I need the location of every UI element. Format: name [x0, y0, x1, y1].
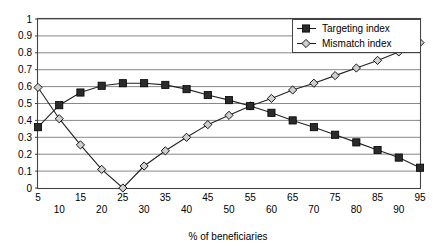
- data-point-marker: [310, 124, 317, 131]
- y-tick-label: 0.9: [18, 30, 32, 41]
- data-point-marker: [204, 91, 211, 98]
- x-tick-label: 15: [75, 192, 87, 203]
- y-tick-label: 0.1: [18, 166, 32, 177]
- x-tick-label: 85: [372, 192, 384, 203]
- y-tick-label: 0.7: [18, 64, 32, 75]
- series-line: [38, 83, 420, 168]
- y-tick-label: 0.8: [18, 47, 32, 58]
- data-point-marker: [225, 97, 232, 104]
- data-point-marker: [268, 109, 275, 116]
- legend[interactable]: Targeting indexMismatch index: [293, 20, 421, 53]
- x-tick-label: 10: [54, 204, 66, 215]
- x-tick-label: 60: [266, 204, 278, 215]
- x-tick-label: 65: [287, 192, 299, 203]
- y-tick-label: 0.6: [18, 81, 32, 92]
- data-point-marker: [373, 56, 381, 64]
- y-tick-label: 0: [26, 183, 32, 194]
- legend-label: Targeting index: [322, 23, 390, 34]
- y-tick-label: 0.2: [18, 149, 32, 160]
- data-point-marker: [98, 82, 105, 89]
- data-point-marker: [267, 94, 275, 102]
- series-mismatch-index: [34, 39, 424, 193]
- data-point-marker: [141, 80, 148, 87]
- x-axis-tick-labels: 5101520253035404550556065707580859095: [35, 192, 426, 215]
- y-tick-label: 0.5: [18, 98, 32, 109]
- x-tick-label: 90: [393, 204, 405, 215]
- chart-container: 00.10.20.30.40.50.60.70.80.91 5101520253…: [0, 0, 448, 250]
- data-point-marker: [352, 64, 360, 72]
- data-point-marker: [331, 72, 339, 80]
- data-point-marker: [289, 117, 296, 124]
- legend-label: Mismatch index: [322, 38, 391, 49]
- data-point-marker: [416, 164, 423, 171]
- x-tick-label: 95: [414, 192, 426, 203]
- y-tick-label: 0.3: [18, 132, 32, 143]
- y-tick-label: 0.4: [18, 115, 32, 126]
- x-tick-label: 75: [330, 192, 342, 203]
- data-point-marker: [77, 89, 84, 96]
- data-point-marker: [395, 154, 402, 161]
- y-axis-tick-labels: 00.10.20.30.40.50.60.70.80.91: [18, 14, 32, 194]
- x-tick-label: 5: [35, 192, 41, 203]
- y-tick-label: 1: [26, 14, 32, 25]
- data-point-marker: [374, 146, 381, 153]
- data-point-marker: [34, 124, 41, 131]
- data-point-marker: [34, 83, 42, 91]
- x-tick-label: 80: [351, 204, 363, 215]
- legend-marker-square: [302, 25, 309, 32]
- data-point-marker: [183, 86, 190, 93]
- x-tick-label: 35: [160, 192, 172, 203]
- x-axis-title: % of beneficiaries: [189, 231, 268, 242]
- data-point-marker: [162, 81, 169, 88]
- data-point-marker: [204, 121, 212, 129]
- data-point-marker: [56, 102, 63, 109]
- x-tick-label: 55: [245, 192, 257, 203]
- data-point-marker: [161, 147, 169, 155]
- x-tick-label: 50: [223, 204, 235, 215]
- series-targeting-index: [34, 80, 423, 172]
- data-point-marker: [289, 86, 297, 94]
- line-chart: 00.10.20.30.40.50.60.70.80.91 5101520253…: [0, 0, 448, 250]
- data-point-marker: [332, 131, 339, 138]
- data-point-marker: [353, 139, 360, 146]
- data-point-marker: [247, 102, 254, 109]
- data-point-marker: [182, 133, 190, 141]
- x-tick-label: 40: [181, 204, 193, 215]
- data-point-marker: [225, 111, 233, 119]
- x-tick-label: 20: [96, 204, 108, 215]
- x-tick-label: 30: [139, 204, 151, 215]
- x-tick-label: 45: [202, 192, 214, 203]
- x-tick-label: 25: [117, 192, 129, 203]
- data-point-marker: [310, 79, 318, 87]
- x-tick-label: 70: [308, 204, 320, 215]
- data-point-marker: [119, 80, 126, 87]
